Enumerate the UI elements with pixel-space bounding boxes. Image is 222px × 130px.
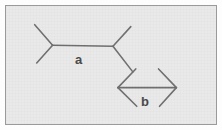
diagram-frame: a b [5,5,217,125]
shaft-a-fin-top-right [113,27,131,47]
muller-lyer-svg [6,6,216,124]
shaft-b-label: b [141,95,149,108]
shaft-a-label: a [75,53,82,66]
shaft-a-fin-bottom-right [113,46,133,72]
shaft-a-group [35,25,133,72]
shaft-a-fin-top-left [35,25,53,46]
shaft-b-fin-bottom-right [160,88,177,107]
shaft-a-line [53,45,113,46]
shaft-b-fin-top-left [118,69,136,88]
shaft-a-fin-bottom-left [37,45,53,63]
shaft-b-fin-bottom-left [118,88,137,107]
shaft-b-fin-top-right [159,69,177,88]
diagram-canvas: a b [0,0,222,130]
